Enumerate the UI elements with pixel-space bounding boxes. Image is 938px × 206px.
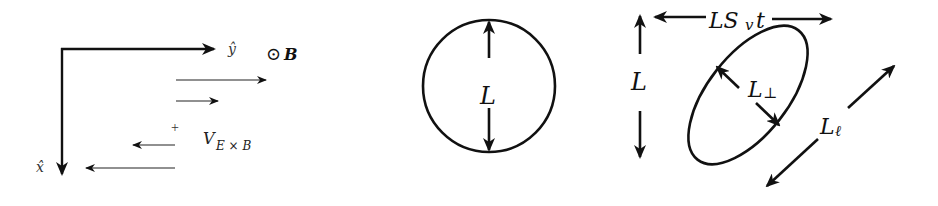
velocity-label-subscript: E × B bbox=[215, 139, 251, 153]
b-field-label: B bbox=[283, 45, 298, 64]
horizontal-label: LS v t bbox=[708, 8, 765, 34]
horizontal-label-main: LS bbox=[708, 8, 739, 33]
center-marker: + bbox=[171, 120, 179, 135]
panel-circular-eddy: L bbox=[423, 20, 555, 152]
diagram-canvas: ŷ x̂ ⊙ B + V E × B L LS v t bbox=[0, 0, 938, 206]
parallel-label-subscript: ℓ bbox=[835, 122, 841, 140]
parallel-arrow-upper bbox=[848, 66, 894, 108]
perp-label-main: L bbox=[747, 77, 763, 102]
perp-label: L ⊥ bbox=[747, 77, 777, 102]
horizontal-label-tail: t bbox=[756, 8, 765, 33]
coordinate-axes bbox=[61, 48, 214, 174]
perp-label-subscript: ⊥ bbox=[763, 85, 777, 101]
b-field-out-of-page-icon: ⊙ bbox=[266, 44, 281, 64]
perp-arrow-upper bbox=[717, 67, 739, 88]
perp-arrow-lower bbox=[756, 103, 779, 125]
diameter-label: L bbox=[479, 82, 496, 110]
y-axis-label: ŷ bbox=[227, 41, 237, 57]
horizontal-label-subscript: v bbox=[745, 16, 754, 34]
x-axis-label: x̂ bbox=[36, 159, 44, 175]
velocity-label-main: V bbox=[203, 129, 216, 148]
parallel-label-main: L bbox=[819, 114, 835, 139]
panel-sheared-eddy: LS v t L L ⊥ L ℓ bbox=[630, 6, 894, 186]
b-field-indicator: ⊙ B bbox=[266, 44, 298, 64]
parallel-arrow-lower bbox=[767, 139, 818, 186]
panel-flow-shear: ŷ x̂ ⊙ B + V E × B bbox=[36, 41, 298, 175]
parallel-label: L ℓ bbox=[819, 114, 841, 140]
vertical-label: L bbox=[630, 68, 647, 96]
velocity-label: V E × B bbox=[203, 129, 251, 153]
